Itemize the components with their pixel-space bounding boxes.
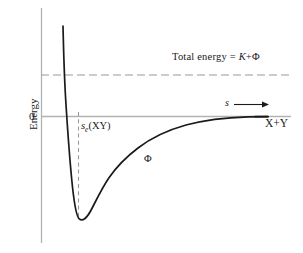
zero-tick-label: 0 — [29, 111, 35, 122]
separation-molecule: (XY) — [88, 120, 110, 131]
potential-curve-label: Φ — [144, 154, 152, 165]
plot-area — [0, 0, 303, 253]
y-axis-label: Energy — [14, 95, 25, 109]
reaction-coordinate-arrow-icon — [234, 102, 269, 108]
total-energy-potential-symbol: Φ — [252, 51, 260, 62]
total-energy-annotation: Total energy = K+Φ — [172, 52, 260, 63]
potential-energy-curve-figure: Energy 0 Total energy = K+Φ se(XY) s X+Y… — [0, 0, 303, 253]
total-energy-equals-sign: = — [230, 51, 236, 62]
products-label: X+Y — [265, 118, 288, 130]
total-energy-text: Total energy — [172, 51, 227, 62]
reaction-coordinate-label: s — [225, 98, 229, 108]
equilibrium-separation-annotation: se(XY) — [81, 121, 111, 134]
total-energy-kinetic-symbol: K — [239, 51, 246, 62]
